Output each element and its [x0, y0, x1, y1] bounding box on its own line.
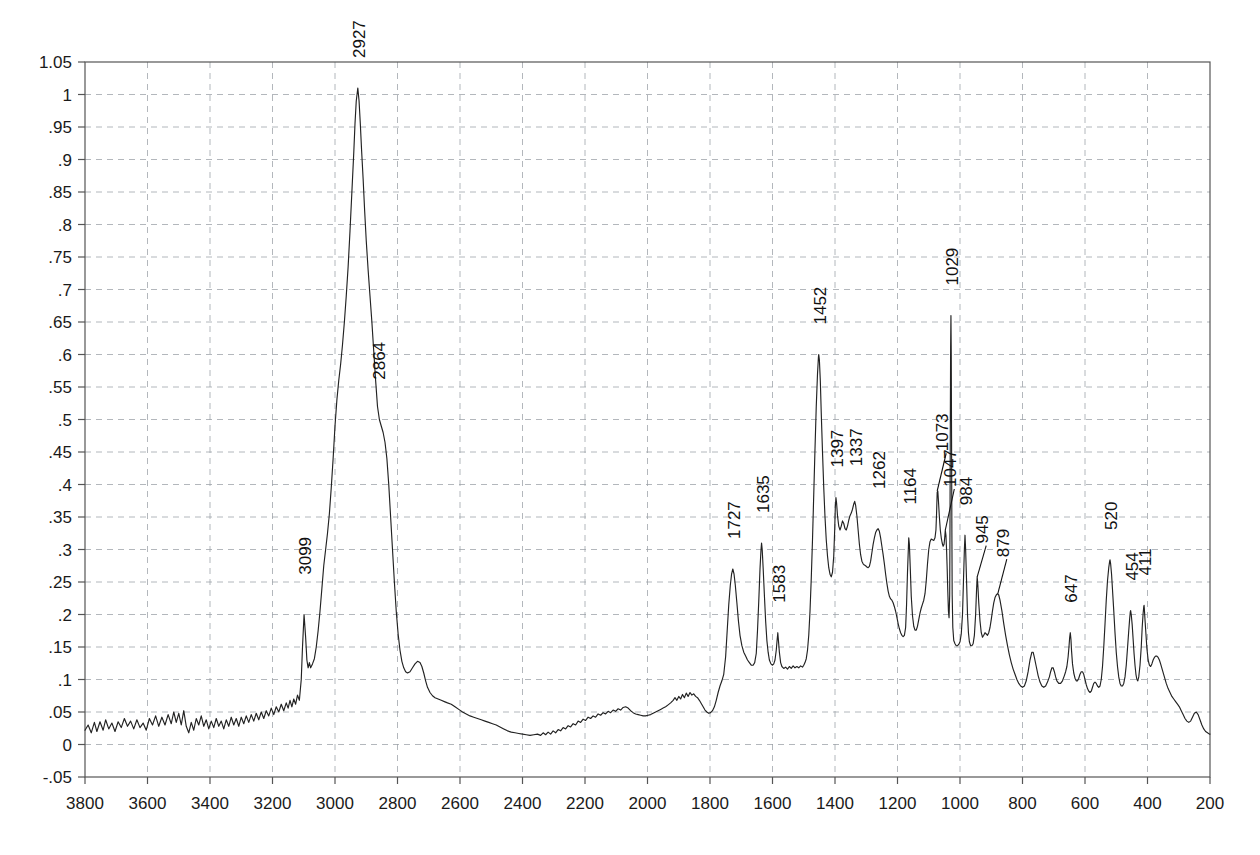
x-tick-label: 2800 — [379, 794, 417, 813]
y-tick-label: .05 — [48, 703, 72, 722]
peak-label: 1164 — [901, 468, 920, 505]
y-tick-label: .25 — [48, 573, 72, 592]
y-tick-label: .3 — [58, 541, 72, 560]
x-tick-label: 2600 — [441, 794, 479, 813]
y-tick-label: .6 — [58, 346, 72, 365]
peak-label: 1262 — [870, 451, 889, 489]
peak-label: 945 — [973, 515, 992, 543]
y-tick-label: 0 — [63, 736, 72, 755]
x-tick-label: 1200 — [879, 794, 917, 813]
peak-label: 647 — [1062, 574, 1081, 602]
x-tick-label: 2400 — [504, 794, 542, 813]
y-tick-label: .65 — [48, 313, 72, 332]
x-tick-label: 1600 — [754, 794, 792, 813]
y-tick-label: .55 — [48, 378, 72, 397]
y-tick-label: .2 — [58, 606, 72, 625]
peak-label: 1337 — [847, 428, 866, 466]
y-tick-label: .75 — [48, 248, 72, 267]
y-tick-label: .95 — [48, 118, 72, 137]
y-tick-label: .8 — [58, 216, 72, 235]
peak-label: 1073 — [933, 413, 952, 451]
peak-label: 411 — [1136, 548, 1155, 575]
peak-label: 879 — [994, 529, 1013, 557]
peak-label: 1397 — [828, 430, 847, 468]
y-tick-label: .9 — [58, 151, 72, 170]
peak-label: 2864 — [370, 342, 389, 380]
x-tick-label: 2200 — [566, 794, 604, 813]
peak-label: 520 — [1102, 502, 1121, 530]
chart-background — [0, 0, 1260, 855]
x-tick-label: 800 — [1008, 794, 1036, 813]
x-tick-label: 1800 — [691, 794, 729, 813]
y-tick-label: .7 — [58, 281, 72, 300]
x-tick-label: 3200 — [254, 794, 292, 813]
peak-label: 1635 — [754, 475, 773, 513]
y-tick-label: -.05 — [43, 768, 72, 787]
peak-label: 2927 — [350, 20, 369, 58]
y-tick-label: .15 — [48, 638, 72, 657]
spectrum-page: -.050.05.1.15.2.25.3.35.4.45.5.55.6.65.7… — [0, 0, 1260, 855]
x-tick-label: 3600 — [129, 794, 167, 813]
x-tick-label: 3400 — [191, 794, 229, 813]
peak-label: 1727 — [725, 501, 744, 539]
peak-label: 3099 — [296, 537, 315, 575]
y-tick-label: 1.05 — [39, 53, 72, 72]
y-tick-label: .5 — [58, 411, 72, 430]
x-tick-label: 600 — [1071, 794, 1099, 813]
peak-label: 984 — [957, 477, 976, 505]
y-tick-label: .35 — [48, 508, 72, 527]
x-tick-label: 400 — [1133, 794, 1161, 813]
x-tick-label: 2000 — [629, 794, 667, 813]
y-tick-label: .85 — [48, 183, 72, 202]
peak-label: 1452 — [811, 287, 830, 325]
x-tick-label: 1400 — [816, 794, 854, 813]
peak-label: 1029 — [943, 248, 962, 286]
peak-label: 1583 — [770, 565, 789, 603]
y-tick-label: .45 — [48, 443, 72, 462]
x-tick-label: 1000 — [941, 794, 979, 813]
y-tick-label: .1 — [58, 671, 72, 690]
y-tick-label: .4 — [58, 476, 72, 495]
x-tick-label: 3800 — [66, 794, 104, 813]
x-tick-label: 200 — [1196, 794, 1224, 813]
y-tick-label: 1 — [63, 86, 72, 105]
x-tick-label: 3000 — [316, 794, 354, 813]
ftir-spectrum-chart: -.050.05.1.15.2.25.3.35.4.45.5.55.6.65.7… — [0, 0, 1260, 855]
